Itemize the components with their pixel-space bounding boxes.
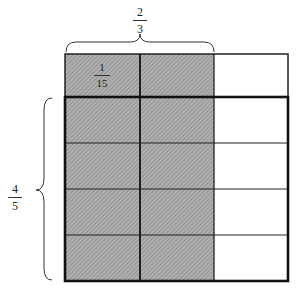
fraction-bar bbox=[94, 75, 110, 76]
top-brace bbox=[66, 34, 214, 52]
cell-fraction-numerator: 1 bbox=[94, 62, 110, 73]
top-fraction-denominator: 3 bbox=[133, 23, 147, 35]
top-fraction-label: 2 3 bbox=[133, 6, 147, 35]
area-model-diagram bbox=[0, 0, 305, 294]
left-fraction-label: 4 5 bbox=[8, 183, 22, 212]
top-fraction-numerator: 2 bbox=[133, 6, 147, 18]
fraction-bar bbox=[133, 20, 147, 21]
left-fraction-numerator: 4 bbox=[8, 183, 22, 195]
cell-fraction-label: 1 15 bbox=[94, 62, 110, 89]
cell-fraction-denominator: 15 bbox=[94, 78, 110, 89]
left-brace bbox=[36, 98, 52, 280]
fraction-bar bbox=[8, 197, 22, 198]
left-fraction-denominator: 5 bbox=[8, 200, 22, 212]
